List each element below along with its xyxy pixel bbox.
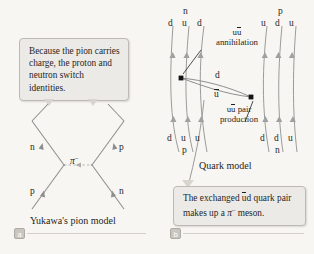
- label-bottom-neutron-quark-2: d: [274, 133, 279, 143]
- divider-a: [27, 233, 146, 234]
- panel-yukawa-pion-model: Because the pion carries charge, the pro…: [0, 0, 157, 254]
- production-word-2: production: [220, 114, 258, 124]
- label-bottom-proton: p: [182, 145, 187, 155]
- label-bottom-neutron: n: [275, 145, 280, 155]
- callout-ubar: u: [242, 192, 247, 204]
- label-outgoing-proton: p: [119, 142, 124, 152]
- label-pion-exchange: π–: [70, 153, 78, 166]
- label-top-proton-quark-3: u: [289, 18, 294, 28]
- footer-panel-b: b: [170, 228, 304, 240]
- badge-a: a: [14, 228, 25, 239]
- annihilation-ubar: u: [237, 27, 241, 37]
- label-top-neutron-quark-2: u: [182, 18, 187, 28]
- label-bottom-proton-quark-2: u: [181, 133, 186, 143]
- label-incoming-proton: p: [30, 186, 35, 196]
- panel-quark-model: n d u d p u d u uu annihilation d u uu p…: [157, 0, 314, 254]
- label-incoming-neutron: n: [30, 142, 35, 152]
- label-top-proton-quark-2: d: [275, 18, 280, 28]
- divider-b: [183, 233, 304, 234]
- note-annihilation: uu annihilation: [200, 27, 274, 48]
- label-bottom-neutron-quark-1: d: [260, 133, 265, 143]
- caption-quark-model: Quark model: [199, 160, 252, 171]
- label-top-proton: p: [278, 6, 283, 16]
- production-ubar: u: [231, 104, 235, 114]
- production-word-1: pair: [238, 104, 252, 114]
- label-exchanged-ubar: u: [214, 89, 219, 99]
- callout-suffix: meson.: [235, 209, 264, 219]
- callout-exchanged-quark-pair: The exchanged ud quark pair makes up a π…: [173, 186, 306, 226]
- note-pair-production: uu pair production: [197, 104, 281, 125]
- label-outgoing-neutron: n: [119, 186, 124, 196]
- label-top-neutron: n: [183, 6, 188, 16]
- label-bottom-neutron-quark-3: u: [288, 133, 293, 143]
- physics-figure: Because the pion carries charge, the pro…: [0, 0, 314, 254]
- label-bottom-proton-quark-3: u: [195, 133, 200, 143]
- pion-charge: –: [75, 154, 79, 162]
- footer-panel-a: a: [14, 228, 146, 240]
- caption-yukawa: Yukawa's pion model: [30, 215, 116, 226]
- annihilation-word: annihilation: [216, 37, 258, 47]
- exchanged-ubar-glyph: u: [214, 89, 219, 99]
- label-exchanged-d: d: [215, 70, 220, 80]
- badge-b: b: [170, 228, 181, 239]
- label-bottom-proton-quark-1: d: [167, 133, 172, 143]
- callout-prefix: The exchanged: [183, 193, 242, 203]
- label-top-neutron-quark-1: d: [168, 18, 173, 28]
